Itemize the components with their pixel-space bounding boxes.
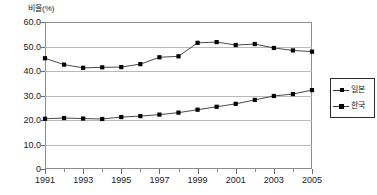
x-axis-major-tick bbox=[274, 169, 275, 174]
x-axis-tick-label: 1999 bbox=[188, 175, 208, 185]
x-axis-tick-label: 2001 bbox=[226, 175, 246, 185]
x-axis: 19911993199519971999200120032005 bbox=[45, 169, 312, 195]
data-point-marker bbox=[138, 62, 142, 66]
legend-label-korea: 한국 bbox=[351, 101, 365, 111]
data-point-marker bbox=[215, 40, 219, 44]
x-axis-minor-tick bbox=[217, 169, 218, 172]
data-point-marker bbox=[291, 92, 295, 96]
data-point-marker bbox=[62, 63, 66, 67]
data-point-marker bbox=[234, 102, 238, 106]
data-point-marker bbox=[176, 54, 180, 58]
chart-legend: 일본 한국 bbox=[330, 78, 375, 118]
data-series-layer bbox=[45, 22, 312, 169]
legend-marker-japan-icon bbox=[333, 85, 349, 95]
y-axis-label: 비율(%) bbox=[28, 2, 54, 13]
data-point-marker bbox=[195, 108, 199, 112]
x-axis-minor-tick bbox=[179, 169, 180, 172]
data-point-marker bbox=[253, 42, 257, 46]
x-axis-major-tick bbox=[121, 169, 122, 174]
plot-area bbox=[45, 22, 312, 169]
x-axis-tick-label: 1995 bbox=[111, 175, 131, 185]
data-point-marker bbox=[119, 115, 123, 119]
data-point-marker bbox=[310, 88, 314, 92]
data-point-marker bbox=[100, 65, 104, 69]
x-axis-tick-label: 1993 bbox=[73, 175, 93, 185]
chart-container: 비율(%) 010.020.030.040.050.060.0 19911993… bbox=[0, 0, 377, 195]
data-point-marker bbox=[272, 46, 276, 50]
data-point-marker bbox=[62, 116, 66, 120]
data-point-marker bbox=[138, 114, 142, 118]
data-point-marker bbox=[234, 43, 238, 47]
x-axis-minor-tick bbox=[102, 169, 103, 172]
data-point-marker bbox=[310, 50, 314, 54]
y-axis-tick-marks bbox=[0, 22, 50, 169]
data-point-marker bbox=[195, 41, 199, 45]
data-point-marker bbox=[43, 56, 47, 60]
x-axis-minor-tick bbox=[293, 169, 294, 172]
x-axis-major-tick bbox=[45, 169, 46, 174]
legend-item-korea: 한국 bbox=[333, 98, 372, 114]
x-axis-major-tick bbox=[198, 169, 199, 174]
data-point-marker bbox=[119, 65, 123, 69]
x-axis-major-tick bbox=[159, 169, 160, 174]
data-point-marker bbox=[176, 111, 180, 115]
x-axis-tick-label: 2005 bbox=[302, 175, 322, 185]
x-axis-tick-label: 2003 bbox=[264, 175, 284, 185]
data-point-marker bbox=[100, 117, 104, 121]
data-point-marker bbox=[81, 66, 85, 70]
data-point-marker bbox=[43, 117, 47, 121]
data-point-marker bbox=[81, 116, 85, 120]
x-axis-major-tick bbox=[83, 169, 84, 174]
legend-label-japan: 일본 bbox=[351, 85, 365, 95]
data-point-marker bbox=[215, 105, 219, 109]
x-axis-major-tick bbox=[312, 169, 313, 174]
x-axis-tick-label: 1991 bbox=[35, 175, 55, 185]
legend-marker-korea-icon bbox=[333, 101, 349, 111]
legend-item-japan: 일본 bbox=[333, 82, 372, 98]
x-axis-tick-label: 1997 bbox=[149, 175, 169, 185]
x-axis-minor-tick bbox=[140, 169, 141, 172]
x-axis-minor-tick bbox=[255, 169, 256, 172]
x-axis-minor-tick bbox=[64, 169, 65, 172]
data-point-marker bbox=[291, 48, 295, 52]
data-point-marker bbox=[272, 94, 276, 98]
data-point-marker bbox=[157, 55, 161, 59]
data-point-marker bbox=[157, 113, 161, 117]
x-axis-major-tick bbox=[236, 169, 237, 174]
data-point-marker bbox=[253, 98, 257, 102]
